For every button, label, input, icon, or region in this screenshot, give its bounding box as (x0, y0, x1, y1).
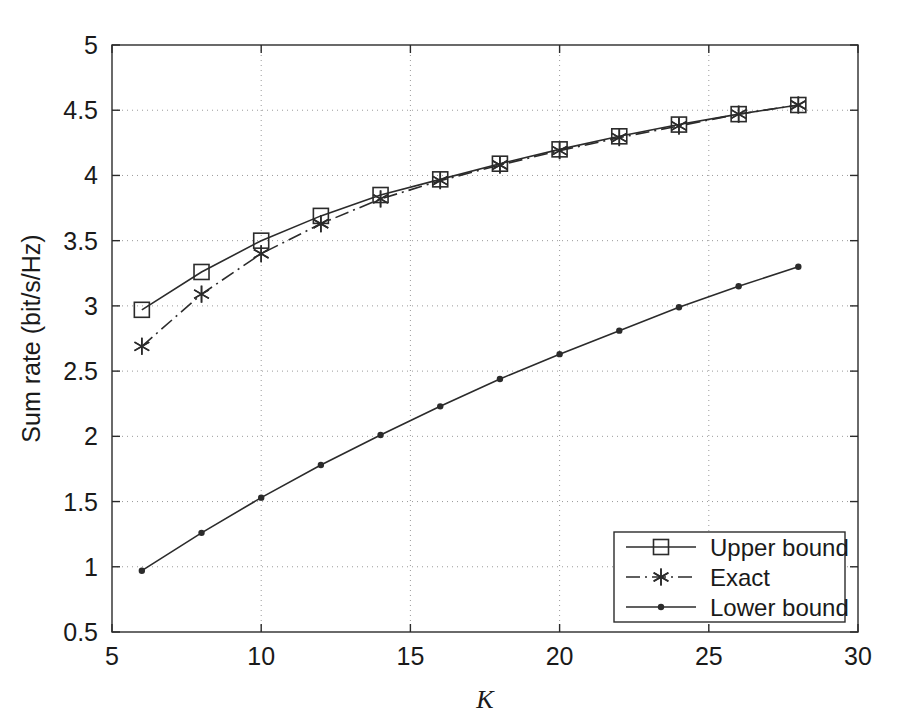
marker-dot (556, 351, 562, 357)
x-tick-label: 5 (105, 642, 119, 670)
chart-legend[interactable]: Upper boundExactLower bound (614, 532, 849, 622)
marker-dot (258, 494, 264, 500)
marker-dot (139, 567, 145, 573)
y-tick-label: 1 (84, 553, 98, 581)
marker-dot (198, 530, 204, 536)
x-tick-label: 20 (546, 642, 574, 670)
y-tick-label: 5 (84, 31, 98, 59)
marker-dot (437, 403, 443, 409)
x-tick-label: 25 (695, 642, 723, 670)
y-tick-label: 3.5 (63, 227, 98, 255)
y-tick-label: 4.5 (63, 96, 98, 124)
marker-dot (616, 327, 622, 333)
y-tick-label: 3 (84, 292, 98, 320)
x-axis-title: K (475, 685, 495, 714)
x-tick-label: 30 (844, 642, 872, 670)
marker-dot (318, 462, 324, 468)
y-tick-label: 2.5 (63, 357, 98, 385)
line-chart: 510152025300.511.522.533.544.55 KSum rat… (0, 0, 911, 728)
legend-label: Lower bound (710, 594, 849, 621)
x-tick-label: 15 (396, 642, 424, 670)
marker-dot (658, 604, 664, 610)
marker-dot (497, 376, 503, 382)
legend-label: Exact (710, 564, 770, 591)
y-tick-label: 2 (84, 422, 98, 450)
marker-dot (795, 264, 801, 270)
marker-dot (676, 304, 682, 310)
y-tick-label: 0.5 (63, 618, 98, 646)
y-axis-title: Sum rate (bit/s/Hz) (17, 234, 45, 442)
marker-dot (377, 432, 383, 438)
legend-label: Upper bound (710, 534, 849, 561)
x-tick-label: 10 (247, 642, 275, 670)
marker-dot (735, 283, 741, 289)
y-tick-label: 4 (84, 161, 98, 189)
y-tick-label: 1.5 (63, 488, 98, 516)
chart-figure: 510152025300.511.522.533.544.55 KSum rat… (0, 0, 911, 728)
